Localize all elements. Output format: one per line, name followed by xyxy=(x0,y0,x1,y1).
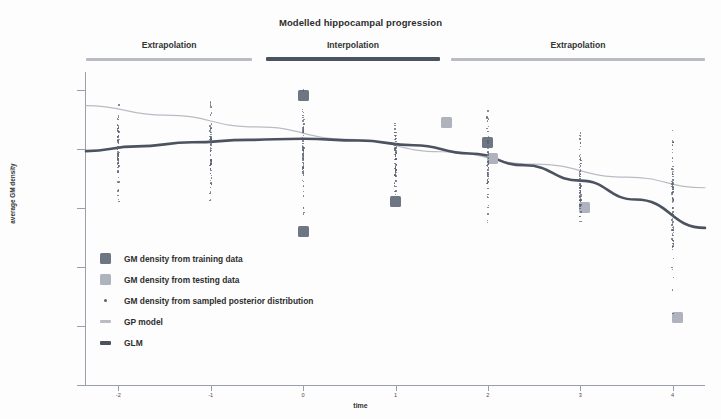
posterior-sample-dot xyxy=(210,173,211,174)
posterior-sample-dot xyxy=(394,163,395,164)
posterior-sample-dot xyxy=(580,160,581,161)
posterior-sample-dot xyxy=(580,146,581,147)
posterior-sample-dot xyxy=(211,175,212,176)
chart-legend: GM density from training dataGM density … xyxy=(100,248,313,353)
posterior-sample-dot xyxy=(302,149,303,150)
posterior-sample-dot xyxy=(118,131,119,132)
posterior-sample-dot xyxy=(210,170,211,171)
posterior-sample-dot xyxy=(672,202,673,203)
posterior-sample-dot xyxy=(487,194,488,195)
posterior-sample-dot xyxy=(118,156,119,157)
x-tick xyxy=(118,385,119,391)
posterior-sample-dot xyxy=(395,158,396,159)
x-axis-label: time xyxy=(0,402,721,409)
posterior-sample-dot xyxy=(395,153,396,154)
posterior-sample-dot xyxy=(487,131,488,132)
posterior-sample-dot xyxy=(209,200,210,201)
posterior-sample-dot xyxy=(210,114,211,115)
x-tick xyxy=(673,385,674,391)
posterior-sample-dot xyxy=(579,183,580,184)
posterior-sample-dot xyxy=(395,186,396,187)
legend-swatch-icon xyxy=(100,253,111,264)
posterior-sample-dot xyxy=(302,160,303,161)
posterior-sample-dot xyxy=(302,117,303,118)
posterior-sample-dot xyxy=(302,143,303,144)
posterior-sample-dot xyxy=(672,188,673,189)
posterior-sample-dot xyxy=(673,277,674,278)
legend-item-label: GLM xyxy=(124,338,143,348)
posterior-sample-dot xyxy=(672,221,673,222)
posterior-sample-dot xyxy=(118,189,119,190)
posterior-sample-dot xyxy=(210,187,211,188)
posterior-sample-dot xyxy=(303,185,304,186)
posterior-sample-dot xyxy=(303,212,304,213)
posterior-sample-dot xyxy=(209,165,210,166)
x-tick-label: 1 xyxy=(381,392,411,398)
posterior-sample-dot xyxy=(302,132,303,133)
y-tick xyxy=(77,90,85,91)
posterior-sample-dot xyxy=(487,154,488,155)
y-tick xyxy=(77,149,85,150)
x-tick xyxy=(580,385,581,391)
legend-item-0[interactable]: GM density from training data xyxy=(100,248,313,269)
posterior-sample-dot xyxy=(395,167,396,168)
posterior-sample-dot xyxy=(487,207,488,208)
posterior-sample-dot xyxy=(210,180,211,181)
posterior-sample-dot xyxy=(394,139,395,140)
posterior-sample-dot xyxy=(487,222,488,223)
posterior-sample-dot xyxy=(672,230,673,231)
posterior-sample-dot xyxy=(488,197,489,198)
posterior-sample-dot xyxy=(673,232,674,233)
posterior-sample-dot xyxy=(672,207,673,208)
posterior-sample-dot xyxy=(210,160,211,161)
posterior-sample-dot xyxy=(210,101,211,102)
posterior-sample-dot xyxy=(303,135,304,136)
posterior-sample-dot xyxy=(486,128,487,129)
posterior-sample-dot xyxy=(488,140,489,141)
posterior-sample-dot xyxy=(394,132,395,133)
posterior-sample-dot xyxy=(211,177,212,178)
legend-item-4[interactable]: GLM xyxy=(100,332,313,353)
posterior-sample-dot xyxy=(673,258,674,259)
data-marker-test xyxy=(441,117,452,128)
model-curves xyxy=(0,0,721,419)
posterior-sample-dot xyxy=(117,119,118,120)
legend-item-label: GM density from sampled posterior distri… xyxy=(124,296,313,306)
posterior-sample-dot xyxy=(303,181,304,182)
x-tick xyxy=(211,385,212,391)
posterior-sample-dot xyxy=(302,147,303,148)
posterior-sample-dot xyxy=(303,195,304,196)
posterior-sample-dot xyxy=(209,130,210,131)
posterior-sample-dot xyxy=(118,147,119,148)
phase-band-label-0: Extrapolation xyxy=(86,40,252,50)
posterior-sample-dot xyxy=(210,141,211,142)
posterior-sample-dot xyxy=(302,120,303,121)
posterior-sample-dot xyxy=(394,128,395,129)
posterior-sample-dot xyxy=(118,105,119,106)
posterior-sample-dot xyxy=(580,173,581,174)
legend-item-label: GM density from training data xyxy=(124,254,243,264)
phase-band-label-2: Extrapolation xyxy=(451,40,705,50)
posterior-sample-dot xyxy=(302,115,303,116)
legend-item-3[interactable]: GP model xyxy=(100,311,313,332)
posterior-sample-dot xyxy=(580,211,581,212)
posterior-sample-dot xyxy=(580,170,581,171)
posterior-sample-dot xyxy=(117,195,118,196)
x-tick-label: 2 xyxy=(473,392,503,398)
posterior-sample-dot xyxy=(117,148,118,149)
posterior-sample-dot xyxy=(395,194,396,195)
phase-band-line-0 xyxy=(86,58,252,61)
posterior-sample-dot xyxy=(118,177,119,178)
posterior-sample-dot xyxy=(672,166,673,167)
posterior-sample-dot xyxy=(303,112,304,113)
posterior-sample-dot xyxy=(672,152,673,153)
legend-item-2[interactable]: GM density from sampled posterior distri… xyxy=(100,290,313,311)
legend-item-1[interactable]: GM density from testing data xyxy=(100,269,313,290)
posterior-sample-dot xyxy=(580,165,581,166)
posterior-sample-dot xyxy=(672,149,673,150)
data-marker-train xyxy=(390,196,401,207)
posterior-sample-dot xyxy=(302,109,303,110)
posterior-sample-dot xyxy=(394,144,395,145)
posterior-sample-dot xyxy=(672,269,673,270)
posterior-sample-dot xyxy=(486,116,487,117)
